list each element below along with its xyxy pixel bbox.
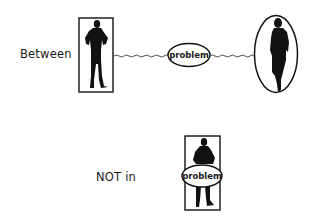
wavy-connector-right [210, 55, 254, 57]
man-silhouette-icon [85, 20, 108, 88]
man-in-box-figure [79, 18, 113, 92]
problem-node-top: problem [168, 44, 210, 67]
woman-silhouette-icon [270, 18, 289, 92]
problem-text-top: problem [169, 50, 209, 60]
man-in-box-with-problem-figure: problem [182, 136, 222, 210]
woman-in-ellipse-figure [255, 16, 298, 93]
diagram-canvas: problem problem [0, 0, 323, 221]
problem-text-bottom: problem [182, 171, 222, 181]
wavy-connector-left [114, 55, 169, 57]
